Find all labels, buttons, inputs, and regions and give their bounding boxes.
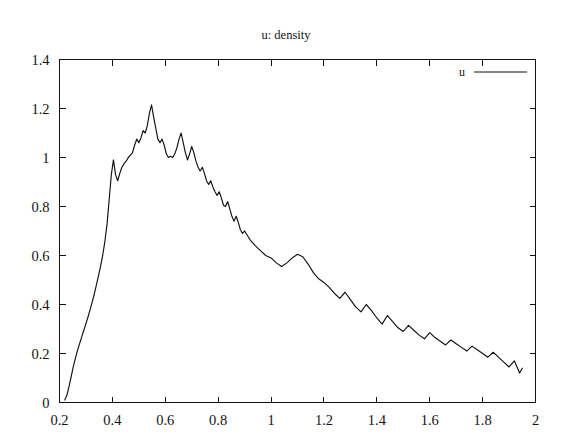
x-tick-label: 1	[267, 412, 274, 428]
chart-canvas: 00.20.40.60.811.21.4 0.20.40.60.811.21.4…	[0, 0, 562, 446]
y-tick-label: 1.4	[31, 52, 50, 68]
x-tick-label: 0.2	[50, 412, 68, 428]
density-chart: 00.20.40.60.811.21.4 0.20.40.60.811.21.4…	[0, 0, 562, 446]
x-tick-label: 1.4	[368, 412, 387, 428]
y-axis-tick-group: 00.20.40.60.811.21.4	[31, 52, 535, 411]
x-tick-label: 0.6	[156, 412, 174, 428]
series-line-u	[65, 105, 522, 400]
x-tick-label: 1.6	[421, 412, 439, 428]
y-tick-label: 0.6	[31, 248, 49, 264]
x-tick-label: 0.8	[209, 412, 227, 428]
plot-frame	[60, 60, 536, 403]
y-tick-label: 1.2	[31, 101, 49, 117]
chart-title: u: density	[262, 28, 312, 42]
x-tick-label: 2	[532, 412, 539, 428]
y-tick-label: 0.8	[31, 199, 49, 215]
x-tick-label: 1.8	[474, 412, 492, 428]
y-tick-label: 1	[42, 150, 49, 166]
x-tick-label: 1.2	[315, 412, 333, 428]
x-tick-label: 0.4	[103, 412, 122, 428]
y-tick-label: 0.2	[31, 346, 49, 362]
x-axis-tick-group: 0.20.40.60.811.21.41.61.82	[50, 60, 539, 428]
legend: u	[459, 65, 527, 79]
y-tick-label: 0.4	[31, 297, 50, 313]
legend-label-u: u	[459, 65, 465, 79]
y-tick-label: 0	[42, 395, 49, 411]
